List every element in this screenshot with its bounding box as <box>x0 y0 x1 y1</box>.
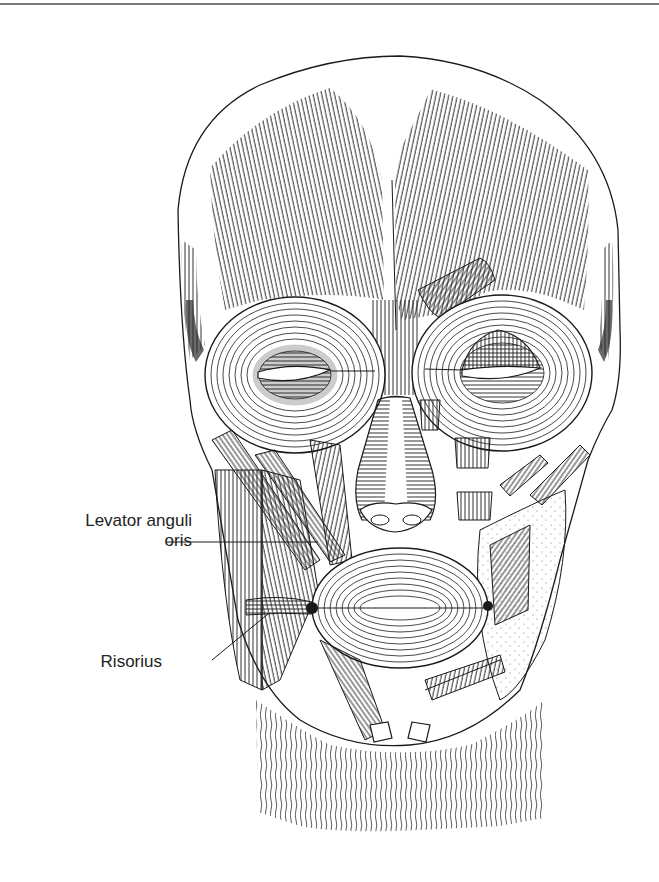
modiolus-right <box>483 601 493 611</box>
label-levator-anguli-oris: Levator anguli oris <box>40 511 192 551</box>
label-risorius-line1: Risorius <box>40 652 162 672</box>
risorius-muscle <box>246 597 312 615</box>
label-levator-line1: Levator anguli <box>40 511 192 531</box>
orbicularis-oculi-right <box>412 295 592 451</box>
label-levator-line2: oris <box>40 531 192 551</box>
facial-muscles-illustration <box>0 0 659 882</box>
label-risorius: Risorius <box>40 652 162 672</box>
